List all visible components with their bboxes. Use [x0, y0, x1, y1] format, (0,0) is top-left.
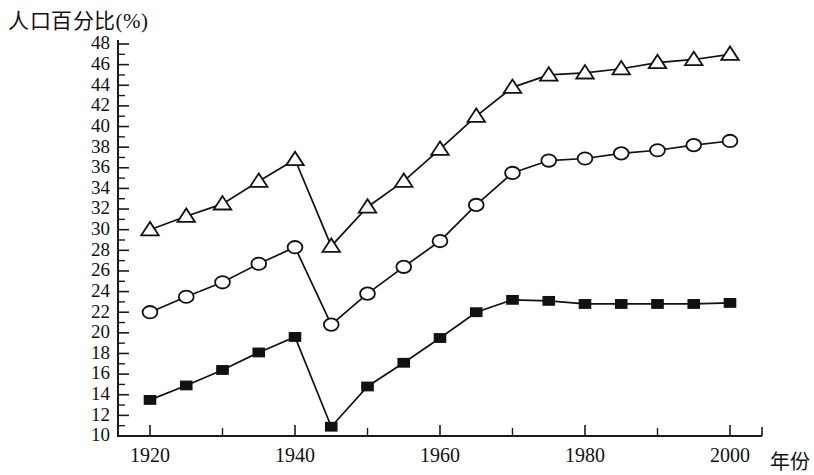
data-point-open-circle: [433, 235, 448, 247]
data-point-open-circle: [396, 261, 411, 273]
y-tick-label: 24: [91, 280, 111, 301]
data-point-open-triangle: [721, 47, 738, 60]
data-point-open-circle: [505, 167, 520, 179]
data-point-open-circle: [578, 152, 593, 164]
series-line-square-series: [150, 300, 730, 427]
y-tick-label: 12: [91, 404, 110, 425]
x-axis-title: 年份: [770, 446, 810, 475]
data-point-filled-square: [652, 300, 663, 309]
data-point-open-circle: [143, 306, 158, 318]
y-tick-label: 30: [91, 218, 110, 239]
y-tick-label: 26: [91, 259, 110, 280]
series-line-circle-series: [150, 141, 730, 325]
y-tick-label: 36: [91, 156, 110, 177]
data-point-filled-square: [507, 296, 518, 305]
data-point-filled-square: [579, 300, 590, 309]
y-axis-title: 人口百分比(%): [8, 4, 148, 34]
data-point-open-triangle: [504, 80, 521, 93]
x-tick-label: 1960: [420, 444, 460, 466]
data-point-open-triangle: [178, 208, 195, 221]
x-tick-label: 1940: [275, 444, 315, 466]
data-point-filled-square: [144, 396, 155, 405]
y-tick-label: 42: [91, 94, 110, 115]
data-point-open-circle: [251, 258, 266, 270]
x-tick-label: 2000: [710, 444, 750, 466]
data-point-open-circle: [215, 276, 230, 288]
data-point-open-triangle: [250, 173, 267, 186]
data-point-open-circle: [324, 318, 339, 330]
y-tick-label: 44: [91, 74, 111, 95]
y-axis-ticks: 1012141618202224262830323436384042444648: [91, 32, 129, 445]
data-point-open-circle: [614, 147, 629, 159]
data-point-open-triangle: [214, 196, 231, 209]
x-tick-label: 1920: [130, 444, 170, 466]
data-point-open-circle: [650, 144, 665, 156]
data-point-open-circle: [360, 287, 375, 299]
data-point-filled-square: [434, 334, 445, 343]
data-point-filled-square: [616, 300, 627, 309]
data-series-group: [141, 47, 738, 432]
y-tick-label: 34: [91, 177, 111, 198]
data-point-filled-square: [181, 381, 192, 390]
y-tick-label: 22: [91, 301, 110, 322]
data-point-filled-square: [253, 348, 264, 357]
data-point-filled-square: [398, 358, 409, 367]
x-tick-label: 1980: [565, 444, 605, 466]
data-point-open-circle: [288, 241, 303, 253]
data-point-filled-square: [326, 422, 337, 431]
y-tick-label: 32: [91, 197, 110, 218]
data-point-open-triangle: [141, 222, 158, 235]
data-point-open-circle: [723, 135, 738, 147]
data-point-filled-square: [543, 297, 554, 306]
data-point-filled-square: [289, 333, 300, 342]
y-tick-label: 28: [91, 239, 110, 260]
y-tick-label: 48: [91, 32, 110, 53]
y-tick-label: 10: [91, 424, 110, 445]
data-point-filled-square: [688, 300, 699, 309]
y-tick-label: 18: [91, 342, 110, 363]
data-point-filled-square: [471, 308, 482, 317]
x-axis-ticks: 19201940196019802000: [130, 425, 750, 466]
data-point-open-triangle: [286, 152, 303, 165]
y-tick-label: 14: [91, 383, 111, 404]
data-point-filled-square: [217, 366, 228, 375]
data-point-filled-square: [724, 299, 735, 308]
y-tick-label: 38: [91, 136, 110, 157]
data-point-open-circle: [469, 199, 484, 211]
y-tick-label: 20: [91, 321, 110, 342]
data-point-open-circle: [179, 291, 194, 303]
y-tick-label: 46: [91, 53, 110, 74]
data-point-open-circle: [686, 139, 701, 151]
data-point-open-circle: [541, 154, 556, 166]
data-point-open-triangle: [359, 199, 376, 212]
y-tick-label: 40: [91, 115, 110, 136]
y-tick-label: 16: [91, 362, 110, 383]
data-point-filled-square: [362, 382, 373, 391]
